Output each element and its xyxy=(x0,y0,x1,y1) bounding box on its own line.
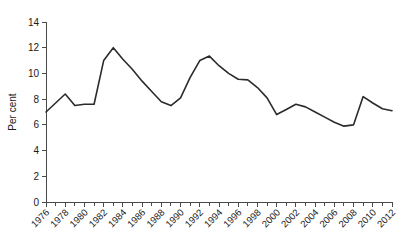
x-tick-label: 2008 xyxy=(336,207,359,230)
x-tick-label: 1976 xyxy=(29,207,52,230)
x-tick-label: 1992 xyxy=(182,207,205,230)
x-tick-label: 1994 xyxy=(202,207,225,230)
y-axis-title: Per cent xyxy=(7,93,18,130)
y-axis: 02468101214 xyxy=(28,17,46,208)
series-line-per-cent xyxy=(46,48,392,126)
y-tick-label: 14 xyxy=(28,17,40,28)
x-tick-label: 1986 xyxy=(125,207,148,230)
y-tick-label: 10 xyxy=(28,68,40,79)
x-tick-label: 1980 xyxy=(67,207,90,230)
y-tick-label: 4 xyxy=(33,145,39,156)
x-tick-label: 2004 xyxy=(298,207,321,230)
x-tick-label: 1990 xyxy=(163,207,186,230)
x-tick-label: 2000 xyxy=(259,207,282,230)
y-axis-title-label: Per cent xyxy=(7,93,18,130)
x-tick-label: 2010 xyxy=(355,207,378,230)
x-tick-label: 2006 xyxy=(317,207,340,230)
y-tick-label: 2 xyxy=(33,171,39,182)
line-chart-canvas: Per cent 02468101214 1976197819801982198… xyxy=(0,0,402,243)
x-axis: 1976197819801982198419861988199019921994… xyxy=(29,202,398,229)
x-tick-label: 1978 xyxy=(48,207,71,230)
x-tick-label: 2012 xyxy=(375,207,398,230)
data-series-line xyxy=(46,48,392,126)
x-tick-label: 1998 xyxy=(240,207,263,230)
y-tick-label: 8 xyxy=(33,94,39,105)
y-tick-label: 12 xyxy=(28,42,40,53)
x-tick-label: 1984 xyxy=(106,207,129,230)
x-tick-label: 1982 xyxy=(86,207,109,230)
y-tick-label: 6 xyxy=(33,119,39,130)
y-tick-label: 0 xyxy=(33,197,39,208)
x-tick-label: 1996 xyxy=(221,207,244,230)
x-tick-label: 2002 xyxy=(279,207,302,230)
chart-figure: Per cent 02468101214 1976197819801982198… xyxy=(0,0,402,243)
x-tick-label: 1988 xyxy=(144,207,167,230)
